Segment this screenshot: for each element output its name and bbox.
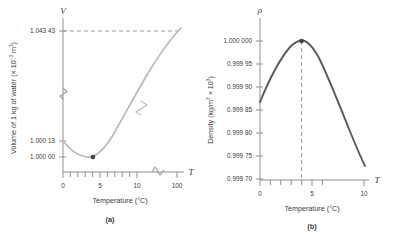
panel-a-xtick-label-10: 10 [133,182,141,189]
panel-a-ytick-label-1: 1.000 13 [30,137,55,144]
panel-b-ytick-label-2: 0.999 90 [227,83,252,90]
panel-b-curve [260,41,365,167]
panel-a-minimum-marker [91,155,96,160]
panel-b-x-axis-symbol: T [374,175,380,185]
panel-b-ytick-label-4: 0.999 80 [227,129,252,136]
panel-a-y-title-end: ) [9,42,18,44]
panel-a-xtick-label-100: 100 [172,182,183,189]
panel-b-svg: 1.000 000 0.999 95 0.999 90 0.999 85 0.9… [199,0,398,235]
panel-a-curve [63,28,181,157]
panel-a-svg: 1.043 43 1.000 13 1.000 00 0 5 10 100 V … [0,0,199,235]
panel-b-y-axis-title: Density (kg/m3 × 103) [206,76,215,144]
panel-b-y-axis-symbol: ρ [257,5,263,15]
panel-a-xtick-label-0: 0 [61,182,65,189]
panel-a-ytick-label-0: 1.043 43 [30,27,55,34]
water-anomaly-figure: 1.043 43 1.000 13 1.000 00 0 5 10 100 V … [0,0,398,235]
panel-a-xtick-label-5: 5 [98,182,102,189]
panel-a-volume-chart: 1.043 43 1.000 13 1.000 00 0 5 10 100 V … [0,0,199,235]
panel-b-xtick-label-10: 10 [360,190,368,197]
panel-b-maximum-marker [299,39,304,44]
panel-a-y-axis-title: Volume of 1 kg of water (× 10−3 m3) [9,42,18,154]
panel-a-y-title-tail: m [9,47,18,55]
panel-b-ytick-label-3: 0.999 85 [227,106,252,113]
panel-b-xtick-label-5: 5 [310,190,314,197]
panel-a-curve-break [136,101,147,115]
panel-b-label: (b) [307,222,317,231]
panel-a-y-title-main: Volume of 1 kg of water (× 10 [9,60,18,154]
panel-b-xtick-label-0: 0 [258,190,262,197]
panel-a-label: (a) [105,215,115,224]
panel-b-x-axis-title: Temperature (°C) [284,204,339,213]
panel-b-y-title-main: Density (kg/m [206,100,215,144]
panel-b-density-chart: 1.000 000 0.999 95 0.999 90 0.999 85 0.9… [199,0,398,235]
panel-a-ytick-label-2: 1.000 00 [30,153,55,160]
panel-b-ytick-label-5: 0.999 75 [227,152,252,159]
panel-b-y-title-mid: × 10 [206,81,215,97]
panel-a-x-axis-break [152,167,164,175]
panel-b-ytick-label-1: 0.999 95 [227,60,252,67]
panel-b-y-title-end: ) [206,76,215,78]
panel-a-x-axis-title: Temperature (°C) [92,196,147,205]
panel-b-ytick-label-6: 0.999 70 [227,175,252,182]
panel-a-y-axis-symbol: V [60,6,67,16]
panel-a-x-axis-symbol: T [188,167,194,177]
panel-b-ytick-label-0: 1.000 000 [224,37,253,44]
